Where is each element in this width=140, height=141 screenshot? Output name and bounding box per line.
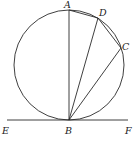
label-a: A <box>63 0 71 10</box>
label-c: C <box>122 41 130 52</box>
geometry-diagram: A D C E B F <box>0 0 140 141</box>
label-d: D <box>98 7 107 18</box>
label-f: F <box>124 125 132 136</box>
segment-ad <box>69 10 98 18</box>
segment-bc <box>69 48 121 120</box>
segment-bd <box>69 18 98 120</box>
segment-dc <box>98 18 121 48</box>
label-b: B <box>64 125 72 136</box>
label-e: E <box>1 125 9 136</box>
